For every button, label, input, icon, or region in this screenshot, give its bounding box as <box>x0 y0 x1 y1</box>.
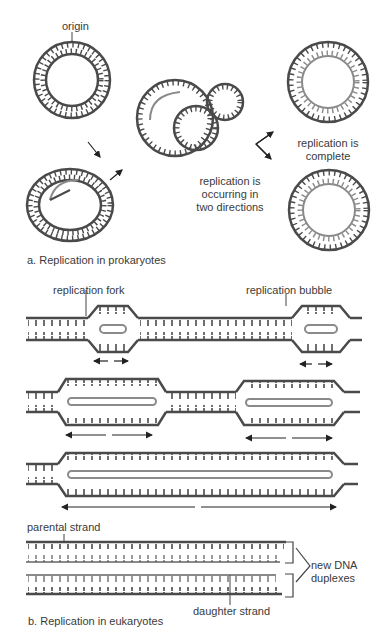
dna-row-3 <box>26 453 358 496</box>
circle-theta-structure <box>137 80 243 156</box>
label-new-dna-duplexes: new DNA duplexes <box>311 559 357 585</box>
caption-eukaryotes: b. Replication in eukaryotes <box>28 615 163 628</box>
arrow-icon <box>88 142 100 157</box>
arrow-icon <box>110 170 122 180</box>
circle-complete-bottom <box>289 170 369 250</box>
dna-row-2 <box>26 379 360 425</box>
label-origin: origin <box>62 20 89 33</box>
label-daughter-strand: daughter strand <box>193 605 270 618</box>
label-replication-occurring: replication is occurring in two directio… <box>188 175 272 214</box>
split-arrow-icon <box>256 133 272 158</box>
dna-replication-diagram <box>0 0 379 635</box>
new-duplexes <box>26 534 310 605</box>
label-replication-bubble: replication bubble <box>246 284 332 297</box>
caption-prokaryotes: a. Replication in prokaryotes <box>27 254 166 267</box>
dna-row-1 <box>26 290 362 352</box>
occurring-line-3: two directions <box>188 201 272 214</box>
complete-line-2: complete <box>290 150 366 163</box>
label-replication-fork: replication fork <box>53 284 125 297</box>
complete-line-1: replication is <box>290 137 366 150</box>
label-parental-strand: parental strand <box>27 521 100 534</box>
circle-complete-top <box>288 42 368 122</box>
duplexes-line-1: new DNA <box>311 559 357 572</box>
circle-replicating-start <box>27 169 113 241</box>
occurring-line-1: replication is <box>188 175 272 188</box>
duplexes-line-2: duplexes <box>311 572 357 585</box>
occurring-line-2: occurring in <box>188 188 272 201</box>
label-replication-complete: replication is complete <box>290 137 366 163</box>
circle-origin <box>34 32 110 118</box>
